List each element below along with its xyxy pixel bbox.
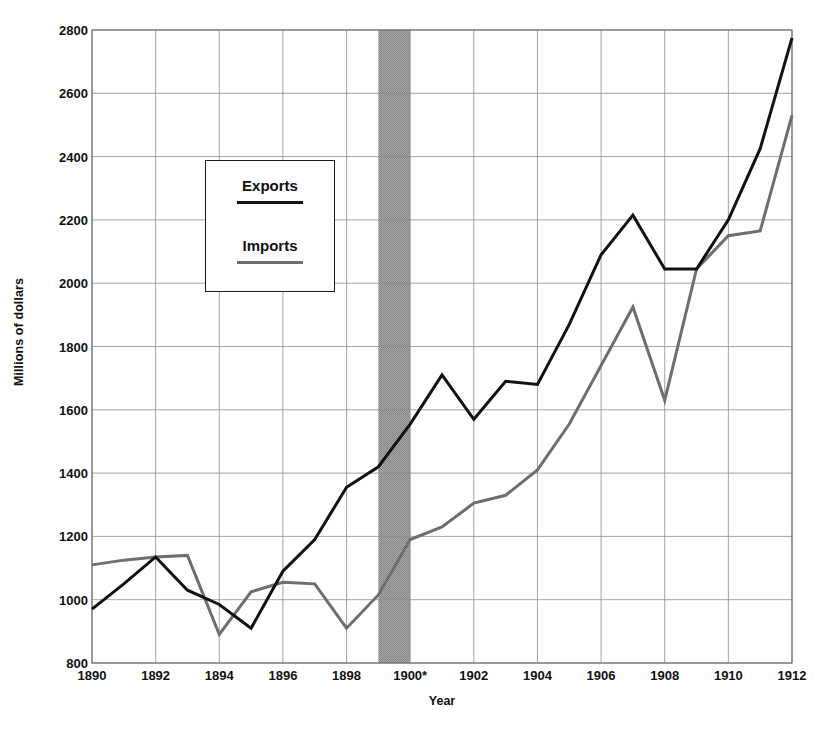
y-tick-label: 1800 [36, 339, 88, 354]
y-tick-label: 2800 [36, 23, 88, 38]
x-tick-label: 1894 [205, 668, 234, 683]
series-line-exports [92, 38, 792, 628]
x-tick-label: 1890 [78, 668, 107, 683]
x-tick-label: 1904 [523, 668, 552, 683]
legend-swatch-exports [237, 201, 303, 204]
x-tick-label: 1898 [332, 668, 361, 683]
x-tick-label: 1908 [650, 668, 679, 683]
x-axis-title: Year [92, 694, 792, 708]
y-tick-label: 2400 [36, 149, 88, 164]
chart-legend: Exports Imports [205, 160, 335, 292]
x-tick-label: 1910 [714, 668, 743, 683]
y-tick-label: 1600 [36, 402, 88, 417]
x-tick-label: 1896 [268, 668, 297, 683]
x-tick-label: 1912 [778, 668, 807, 683]
y-axis-title: Millions of dollars [2, 0, 36, 663]
legend-item-imports: Imports [206, 237, 334, 264]
gridlines [92, 30, 792, 663]
legend-item-exports: Exports [206, 177, 334, 204]
x-tick-label: 1892 [141, 668, 170, 683]
data-series-layer [92, 38, 792, 635]
y-tick-label: 1400 [36, 466, 88, 481]
chart-figure: Millions of dollars 80010001200140016001… [0, 0, 829, 735]
x-tick-label: 1900* [393, 668, 427, 683]
y-tick-label: 2200 [36, 212, 88, 227]
y-axis-tick-labels: 8001000120014001600180020002200240026002… [32, 0, 88, 735]
legend-label-exports: Exports [206, 177, 334, 194]
y-tick-label: 1000 [36, 592, 88, 607]
x-tick-label: 1906 [587, 668, 616, 683]
x-tick-label: 1902 [459, 668, 488, 683]
legend-swatch-imports [237, 261, 303, 264]
plot-canvas [0, 0, 829, 735]
y-tick-label: 2600 [36, 86, 88, 101]
legend-label-imports: Imports [206, 237, 334, 254]
y-tick-label: 2000 [36, 276, 88, 291]
y-tick-label: 1200 [36, 529, 88, 544]
y-axis-title-text: Millions of dollars [12, 277, 26, 385]
